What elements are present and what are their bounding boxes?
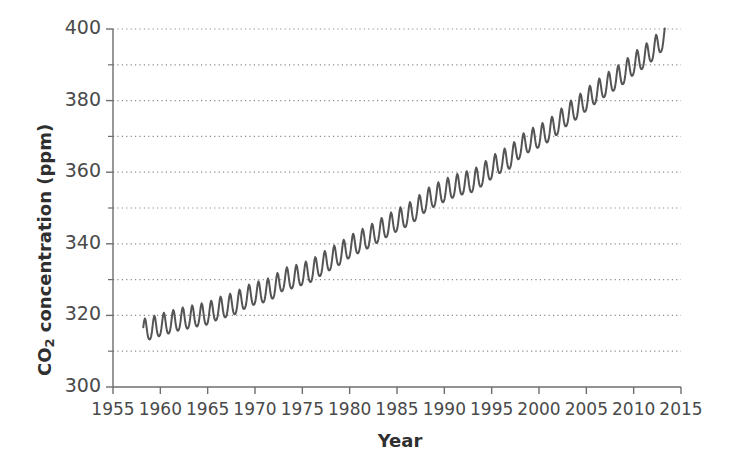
y-axis-title-pre: CO xyxy=(34,347,55,376)
y-tick-label-360: 360 xyxy=(41,159,101,181)
axis-frame xyxy=(113,29,681,387)
y-tick-label-320: 320 xyxy=(41,302,101,324)
y-tick-label-400: 400 xyxy=(41,16,101,38)
x-axis-title: Year xyxy=(300,430,500,451)
axis-ticks xyxy=(106,29,681,394)
co2-concentration-chart: CO2 concentration (ppm) Year 30032034036… xyxy=(0,0,732,474)
y-tick-label-380: 380 xyxy=(41,88,101,110)
gridlines xyxy=(113,29,681,351)
y-tick-label-300: 300 xyxy=(41,374,101,396)
data-series-line xyxy=(143,28,664,339)
y-tick-label-340: 340 xyxy=(41,231,101,253)
x-tick-label-2015: 2015 xyxy=(651,399,711,419)
y-axis-title-subscript: 2 xyxy=(42,338,57,347)
